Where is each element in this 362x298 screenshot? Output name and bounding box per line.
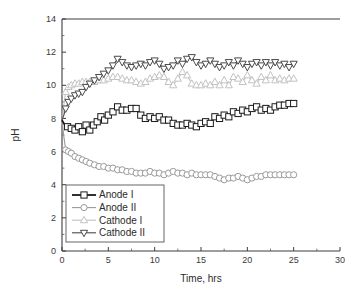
- legend-marker-square: [81, 192, 87, 198]
- series-anode-i: [62, 100, 297, 134]
- legend-label-1: Anode II: [99, 202, 136, 213]
- legend-marker-circle: [81, 205, 87, 211]
- series-anode-ii: [62, 120, 297, 183]
- y-axis-title: pH: [10, 129, 21, 142]
- data-point-marker: [291, 100, 297, 106]
- data-point-marker: [179, 68, 186, 74]
- legend-label-3: Cathode II: [99, 227, 145, 238]
- y-tick-label-2: 2: [51, 213, 56, 223]
- data-series-group: [62, 55, 297, 183]
- data-point-marker: [133, 105, 139, 111]
- data-point-marker: [285, 65, 292, 71]
- legend-label-0: Anode I: [99, 189, 133, 200]
- data-point-marker: [258, 73, 265, 79]
- data-point-marker: [221, 76, 228, 82]
- data-point-marker: [244, 65, 251, 71]
- x-tick-label-10: 10: [150, 255, 160, 265]
- data-point-marker: [244, 71, 251, 77]
- y-tick-label-8: 8: [51, 114, 56, 124]
- data-point-marker: [179, 61, 186, 67]
- x-tick-label-30: 30: [335, 255, 345, 265]
- data-point-marker: [207, 120, 213, 126]
- y-tick-label-0: 0: [51, 246, 56, 256]
- x-tick-label-5: 5: [106, 255, 111, 265]
- data-point-marker: [230, 63, 237, 69]
- data-point-marker: [291, 172, 297, 178]
- x-tick-label-15: 15: [196, 255, 206, 265]
- data-point-marker: [267, 71, 274, 77]
- x-axis-title: Time, hrs: [180, 273, 221, 284]
- y-tick-label-6: 6: [51, 147, 56, 157]
- chart-figure: 02468101214051015202530 Anode IAnode IIC…: [0, 0, 362, 298]
- chart-legend: Anode IAnode IICathode ICathode II: [66, 185, 164, 242]
- x-tick-label-25: 25: [289, 255, 299, 265]
- data-point-marker: [142, 63, 149, 69]
- legend-label-2: Cathode I: [99, 215, 142, 226]
- y-tick-label-10: 10: [46, 80, 56, 90]
- x-tick-label-0: 0: [59, 255, 64, 265]
- y-tick-label-4: 4: [51, 180, 56, 190]
- y-tick-label-14: 14: [46, 14, 56, 24]
- y-tick-label-12: 12: [46, 47, 56, 57]
- data-point-marker: [211, 78, 218, 84]
- data-point-marker: [267, 63, 274, 69]
- ph-vs-time-line-chart: 02468101214051015202530 Anode IAnode IIC…: [0, 0, 362, 298]
- data-point-marker: [258, 63, 265, 69]
- data-point-marker: [79, 129, 85, 135]
- x-tick-label-20: 20: [242, 255, 252, 265]
